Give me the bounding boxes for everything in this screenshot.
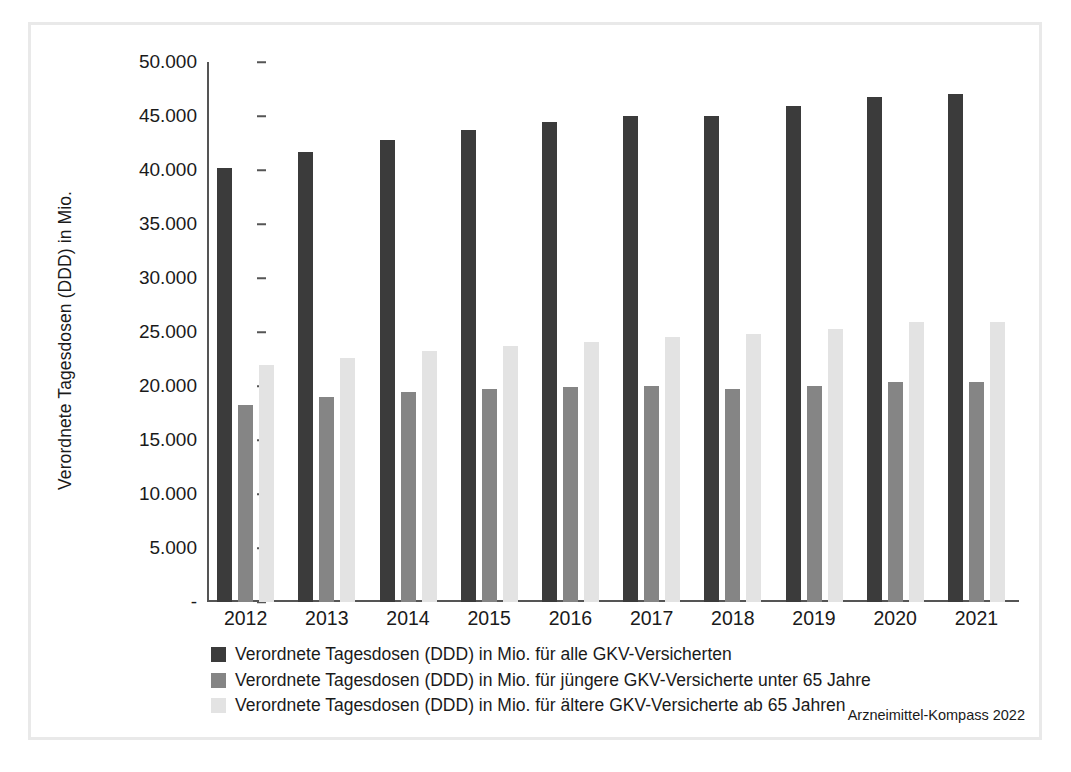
- bar-series-layer: [207, 62, 1019, 602]
- x-axis-tick-label-2013: 2013: [305, 607, 348, 630]
- bar-group-2018: [704, 62, 761, 602]
- bar-2013-series1: [319, 397, 334, 602]
- bar-2017-series2: [665, 337, 680, 602]
- bar-group-2020: [867, 62, 924, 602]
- bar-2012-series1: [238, 405, 253, 602]
- bar-2021-series1: [969, 382, 984, 602]
- bar-group-2013: [298, 62, 355, 602]
- bar-group-2016: [542, 62, 599, 602]
- bar-2016-series1: [563, 387, 578, 602]
- y-axis-tick-label: 35.000: [89, 213, 197, 235]
- source-note: Arzneimittel-Kompass 2022: [848, 707, 1025, 723]
- bar-2021-series2: [990, 322, 1005, 602]
- bar-2020-series0: [867, 97, 882, 602]
- legend-item-1[interactable]: Verordnete Tagesdosen (DDD) in Mio. für …: [211, 668, 871, 694]
- x-axis-tick-label-2012: 2012: [224, 607, 267, 630]
- bar-2016-series0: [542, 122, 557, 602]
- bar-2019-series2: [828, 329, 843, 602]
- y-axis-title: Verordnete Tagesdosen (DDD) in Mio.: [55, 111, 76, 571]
- bar-2018-series1: [725, 389, 740, 602]
- legend-item-2[interactable]: Verordnete Tagesdosen (DDD) in Mio. für …: [211, 693, 871, 719]
- bar-2019-series1: [807, 386, 822, 602]
- bar-2012-series0: [217, 168, 232, 602]
- bar-2015-series0: [461, 130, 476, 602]
- bar-2017-series0: [623, 116, 638, 602]
- bar-group-2017: [623, 62, 680, 602]
- x-axis-tick-label-2016: 2016: [549, 607, 592, 630]
- bar-2021-series0: [948, 94, 963, 602]
- bar-2017-series1: [644, 386, 659, 602]
- medium-swatch: [211, 673, 226, 688]
- y-axis-tick-label: 15.000: [89, 429, 197, 451]
- y-axis-tick-label: 50.000: [89, 51, 197, 73]
- bar-2018-series2: [746, 334, 761, 602]
- bar-2014-series1: [401, 392, 416, 602]
- x-axis-tick-labels: 2012201320142015201620172018201920202021: [207, 607, 1019, 637]
- bar-group-2019: [786, 62, 843, 602]
- bar-2013-series2: [340, 358, 355, 602]
- bar-2016-series2: [584, 342, 599, 602]
- bar-2015-series1: [482, 389, 497, 602]
- bar-2013-series0: [298, 152, 313, 602]
- x-axis-tick-label-2018: 2018: [711, 607, 754, 630]
- y-axis-tick-label: 5.000: [89, 537, 197, 559]
- y-axis-tick-label: 20.000: [89, 375, 197, 397]
- x-axis-tick-label-2021: 2021: [955, 607, 998, 630]
- bar-group-2021: [948, 62, 1005, 602]
- chart-legend: Verordnete Tagesdosen (DDD) in Mio. für …: [211, 642, 871, 719]
- bar-2020-series2: [909, 322, 924, 602]
- bar-2015-series2: [503, 346, 518, 602]
- x-axis-tick-label-2015: 2015: [467, 607, 510, 630]
- bar-group-2012: [217, 62, 274, 602]
- chart-plot-area: Verordnete Tagesdosen (DDD) in Mio. -5.0…: [31, 25, 1039, 737]
- legend-item-label: Verordnete Tagesdosen (DDD) in Mio. für …: [235, 644, 732, 665]
- x-axis-tick-label-2014: 2014: [386, 607, 429, 630]
- bar-2014-series2: [422, 351, 437, 602]
- bar-2020-series1: [888, 382, 903, 602]
- bar-group-2014: [380, 62, 437, 602]
- bar-2018-series0: [704, 116, 719, 602]
- y-axis-tick-label: 40.000: [89, 159, 197, 181]
- y-axis-tick-label: 45.000: [89, 105, 197, 127]
- dark-swatch: [211, 647, 226, 662]
- x-axis-tick-label-2017: 2017: [630, 607, 673, 630]
- light-swatch: [211, 698, 226, 713]
- bar-2012-series2: [259, 365, 274, 602]
- chart-figure-frame: Verordnete Tagesdosen (DDD) in Mio. -5.0…: [28, 22, 1042, 740]
- bar-2019-series0: [786, 106, 801, 602]
- y-axis-tick-label: -: [89, 591, 197, 613]
- y-axis-tick-labels: -5.00010.00015.00020.00025.00030.00035.0…: [89, 62, 197, 622]
- y-axis-tick-label: 30.000: [89, 267, 197, 289]
- legend-item-label: Verordnete Tagesdosen (DDD) in Mio. für …: [235, 695, 846, 716]
- legend-item-0[interactable]: Verordnete Tagesdosen (DDD) in Mio. für …: [211, 642, 871, 668]
- x-axis-tick-label-2019: 2019: [792, 607, 835, 630]
- bar-group-2015: [461, 62, 518, 602]
- bar-2014-series0: [380, 140, 395, 602]
- y-axis-tick-label: 25.000: [89, 321, 197, 343]
- legend-item-label: Verordnete Tagesdosen (DDD) in Mio. für …: [235, 670, 871, 691]
- x-axis-tick-label-2020: 2020: [873, 607, 916, 630]
- y-axis-tick-label: 10.000: [89, 483, 197, 505]
